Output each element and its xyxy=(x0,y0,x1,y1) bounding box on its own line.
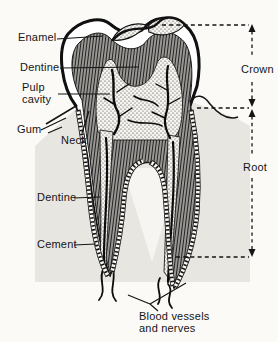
label-enamel: Enamel xyxy=(18,31,57,43)
label-dentine-lower: Dentine xyxy=(37,191,76,203)
tooth-illustration xyxy=(0,0,278,342)
label-pulp-cavity: Pulp cavity xyxy=(22,81,68,105)
label-dentine-upper: Dentine xyxy=(20,61,59,73)
label-gum: Gum xyxy=(17,123,41,135)
label-cement: Cement xyxy=(37,238,77,250)
label-blood-vessels: Blood vessels and nerves xyxy=(139,310,221,334)
label-neck: Neck xyxy=(61,134,87,146)
label-root: Root xyxy=(243,161,267,173)
label-crown: Crown xyxy=(241,63,274,75)
tooth-diagram: Enamel Dentine Pulp cavity Gum Neck Dent… xyxy=(0,0,278,342)
